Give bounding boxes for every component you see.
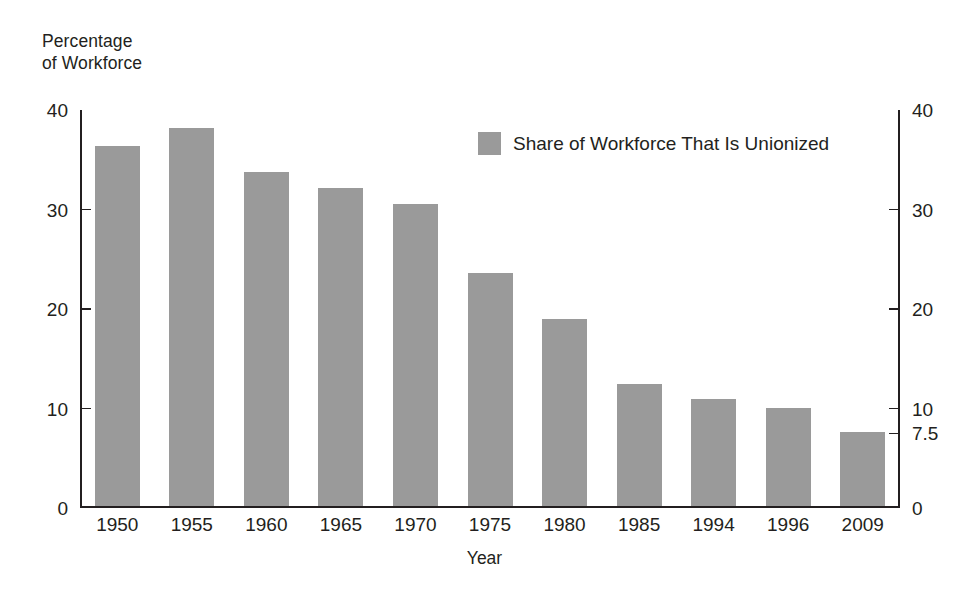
- y-axis-right-labels: 07.510203040: [912, 110, 964, 508]
- y-tick-left: [80, 408, 91, 410]
- y-tick-label-left: 40: [22, 101, 68, 120]
- y-tick-label-right: 10: [912, 399, 933, 418]
- x-tick-label: 1960: [245, 514, 287, 536]
- x-tick-label: 1985: [618, 514, 660, 536]
- y-tick-label-right: 40: [912, 101, 933, 120]
- x-axis-title: Year: [0, 548, 969, 569]
- x-tick-label: 1975: [469, 514, 511, 536]
- y-tick-label-left: 10: [22, 399, 68, 418]
- bar: [840, 432, 885, 507]
- bar: [318, 188, 363, 506]
- y-tick-label-left: 30: [22, 200, 68, 219]
- bar: [617, 384, 662, 506]
- y-tick-label-right: 0: [912, 499, 923, 518]
- x-tick-label: 1994: [692, 514, 734, 536]
- y-tick-right: [889, 308, 900, 310]
- x-tick-label: 1965: [320, 514, 362, 536]
- bar: [95, 146, 140, 506]
- x-tick-label: 2009: [842, 514, 884, 536]
- bar: [542, 319, 587, 506]
- x-tick-label: 1955: [171, 514, 213, 536]
- legend-label-unionized: Share of Workforce That Is Unionized: [513, 133, 829, 155]
- y-axis-left-labels: 010203040: [22, 110, 68, 508]
- bar: [393, 204, 438, 506]
- y-tick-label-left: 20: [22, 300, 68, 319]
- y-tick-label-right: 7.5: [912, 424, 938, 443]
- x-tick-label: 1970: [394, 514, 436, 536]
- y-tick-label-left: 0: [22, 499, 68, 518]
- y-tick-right: [889, 433, 900, 435]
- bar: [468, 273, 513, 507]
- x-tick-label: 1996: [767, 514, 809, 536]
- y-tick-label-right: 30: [912, 200, 933, 219]
- bar: [691, 399, 736, 506]
- bar: [169, 128, 214, 506]
- bar: [766, 408, 811, 507]
- plot-area: [80, 110, 900, 508]
- x-tick-label: 1980: [543, 514, 585, 536]
- y-tick-left: [80, 209, 91, 211]
- x-tick-label: 1950: [96, 514, 138, 536]
- chart-legend: Share of Workforce That Is Unionized: [478, 132, 829, 155]
- y-tick-left: [80, 308, 91, 310]
- y-tick-label-right: 20: [912, 300, 933, 319]
- y-tick-right: [889, 408, 900, 410]
- bar: [244, 172, 289, 506]
- x-axis-labels: 1950195519601965197019751980198519941996…: [80, 514, 900, 544]
- y-tick-right: [889, 209, 900, 211]
- axis-spine-bottom: [80, 506, 900, 508]
- y-axis-title: Percentage of Workforce: [42, 30, 142, 74]
- chart-figure: Percentage of Workforce 010203040 07.510…: [0, 0, 969, 604]
- legend-swatch-unionized: [478, 132, 501, 155]
